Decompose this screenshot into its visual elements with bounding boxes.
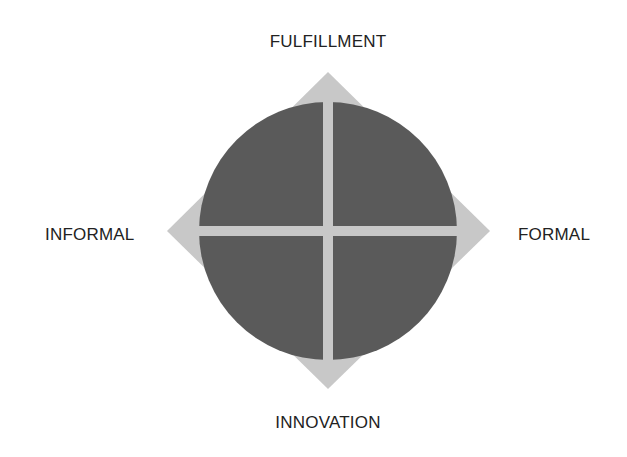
axis-label-right: FORMAL xyxy=(518,225,590,245)
quadrant-diagram: FULFILLMENT INNOVATION INFORMAL FORMAL xyxy=(0,0,627,457)
axis-label-bottom: INNOVATION xyxy=(0,413,627,433)
axis-label-left: INFORMAL xyxy=(45,225,134,245)
horizontal-axis-bar xyxy=(198,226,459,236)
axis-label-top: FULFILLMENT xyxy=(0,32,627,52)
